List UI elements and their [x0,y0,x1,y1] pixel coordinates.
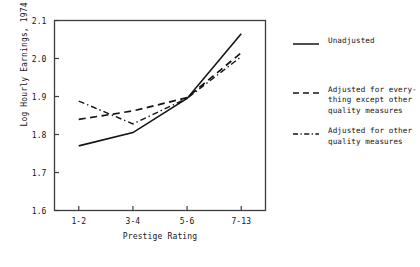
chart-legend: Unadjusted Adjusted for every- thing exc… [292,36,418,99]
data-line-2 [79,57,241,124]
dash-dot-line-sample [292,129,320,139]
y-tick-label: 2.1 [32,17,47,26]
x-tick-label: 3-4 [126,217,141,226]
y-tick-label: 1.8 [32,131,47,140]
legend-label-adjusted-other: Adjusted for other quality measures [328,126,418,147]
chart-figure: 1.61.71.81.92.02.1 1-23-45-67-13 Log Hou… [0,0,420,267]
legend-item-adjusted-except-other: Adjusted for every- thing except other q… [292,85,418,117]
data-line-0 [79,34,241,146]
x-tick-label: 5-6 [180,217,195,226]
x-tick-label: 7-13 [231,217,251,226]
x-tick-label: 1-2 [71,217,86,226]
legend-item-adjusted-other: Adjusted for other quality measures [292,126,418,147]
dashed-line-sample [292,88,320,98]
y-tick-label: 2.0 [32,55,47,64]
y-tick-label: 1.6 [32,207,47,216]
y-tick-label: 1.9 [32,93,47,102]
legend-item-unadjusted: Unadjusted [292,36,418,47]
x-axis-label: Prestige Rating [54,232,266,241]
figure-canvas: 1.61.71.81.92.02.1 1-23-45-67-13 Log Hou… [0,0,420,267]
y-tick-label: 1.7 [32,169,47,178]
y-axis-label: Log Hourly Earnings, 1974 [20,7,29,127]
x-axis-ticks: 1-23-45-67-13 [71,206,251,226]
legend-label-unadjusted: Unadjusted [328,36,418,47]
data-series-group [79,34,241,146]
legend-label-adjusted-except-other: Adjusted for every- thing except other q… [328,85,418,117]
solid-line-sample [292,39,320,49]
